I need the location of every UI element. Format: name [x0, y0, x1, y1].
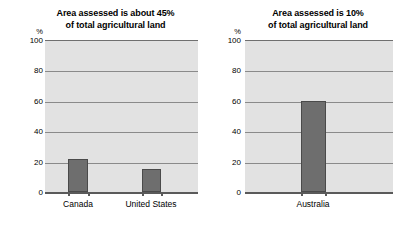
y-tick-label-20-right: 20 — [213, 157, 241, 166]
gridline-80-left — [45, 71, 198, 72]
y-tick-label-0-left: 0 — [15, 188, 43, 197]
y-tick-label-80-right: 80 — [213, 66, 241, 75]
gridline-40-left — [45, 132, 198, 133]
x-label-united-states: United States — [125, 199, 176, 209]
y-tick-label-80-left: 80 — [15, 66, 43, 75]
bar-canada — [68, 159, 88, 192]
chart-panel-right: Area assessed is 10% of total agricultur… — [203, 0, 405, 230]
y-tick-label-40-right: 40 — [213, 127, 241, 136]
y-tick-label-20-left: 20 — [15, 157, 43, 166]
chart-title-right-line2: of total agricultural land — [217, 20, 405, 32]
x-tick-australia-left — [301, 192, 303, 196]
dual-bar-chart-figure: Area assessed is about 45% of total agri… — [0, 0, 405, 230]
chart-title-right-line1: Area assessed is 10% — [217, 8, 405, 20]
y-tick-label-100-right: 100 — [213, 36, 241, 45]
y-tick-label-0-right: 0 — [213, 188, 241, 197]
x-tick-united-states-right — [161, 192, 163, 196]
chart-panel-left: Area assessed is about 45% of total agri… — [0, 0, 203, 230]
x-label-canada: Canada — [63, 199, 93, 209]
y-tick-label-100-left: 100 — [15, 36, 43, 45]
gridline-80-right — [245, 71, 393, 72]
bar-australia — [301, 101, 326, 192]
x-tick-canada — [68, 192, 70, 196]
x-label-australia: Australia — [296, 199, 329, 209]
x-tick-united-states — [142, 192, 144, 196]
gridline-60-left — [45, 102, 198, 103]
chart-title-left-line1: Area assessed is about 45% — [14, 8, 217, 20]
plot-area-right — [245, 40, 393, 192]
y-tick-label-60-right: 60 — [213, 96, 241, 105]
bar-united-states — [142, 169, 161, 192]
y-tick-label-40-left: 40 — [15, 127, 43, 136]
x-tick-canada-right — [88, 192, 90, 196]
x-tick-australia-right — [325, 192, 327, 196]
plot-area-left — [45, 40, 198, 192]
chart-title-left-line2: of total agricultural land — [14, 20, 217, 32]
y-tick-label-60-left: 60 — [15, 96, 43, 105]
x-axis-line-right — [245, 192, 393, 194]
